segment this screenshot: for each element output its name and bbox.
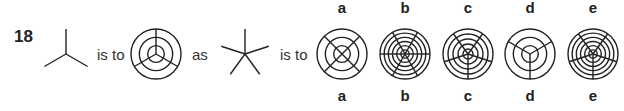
phrase-is-to-2: is to bbox=[280, 47, 308, 63]
spoke-line bbox=[134, 54, 156, 67]
phrase-as: as bbox=[192, 47, 208, 63]
option-label-top-e: e bbox=[583, 0, 603, 16]
spoke-line bbox=[156, 54, 178, 67]
option-b-figure[interactable] bbox=[375, 24, 435, 84]
option-label-bottom-d[interactable]: d bbox=[520, 88, 540, 104]
spoke-line bbox=[44, 54, 66, 67]
spoke-line bbox=[405, 54, 418, 76]
spoke-line bbox=[245, 54, 260, 74]
spoke-line bbox=[245, 46, 269, 54]
option-c-figure[interactable] bbox=[438, 24, 498, 84]
spoke-line bbox=[324, 36, 342, 54]
option-a-figure[interactable] bbox=[312, 24, 372, 84]
option-e-figure[interactable] bbox=[563, 24, 623, 84]
option-label-bottom-c[interactable]: c bbox=[458, 88, 478, 104]
spoke-line bbox=[324, 54, 342, 72]
question-number: 18 bbox=[14, 28, 33, 46]
option-label-top-c: c bbox=[458, 0, 478, 16]
spoke-line bbox=[530, 42, 552, 55]
option-label-top-a: a bbox=[332, 0, 352, 16]
figure-three-spoke-star bbox=[36, 24, 96, 84]
option-label-bottom-e[interactable]: e bbox=[583, 88, 603, 104]
option-label-bottom-a[interactable]: a bbox=[332, 88, 352, 104]
spoke-line bbox=[221, 46, 245, 54]
spoke-line bbox=[342, 54, 360, 72]
spoke-line bbox=[66, 54, 88, 67]
spoke-line bbox=[508, 42, 530, 55]
spoke-line bbox=[342, 36, 360, 54]
phrase-is-to-1: is to bbox=[97, 47, 125, 63]
option-label-top-b: b bbox=[395, 0, 415, 16]
option-d-figure[interactable] bbox=[500, 24, 560, 84]
spoke-line bbox=[405, 32, 418, 54]
figure-five-spoke-star bbox=[215, 24, 275, 84]
spoke-line bbox=[393, 54, 406, 76]
option-label-top-d: d bbox=[520, 0, 540, 16]
spoke-line bbox=[230, 54, 245, 74]
figure-target-three-circles-three-spokes bbox=[126, 24, 186, 84]
option-label-bottom-b[interactable]: b bbox=[395, 88, 415, 104]
spoke-line bbox=[393, 32, 406, 54]
